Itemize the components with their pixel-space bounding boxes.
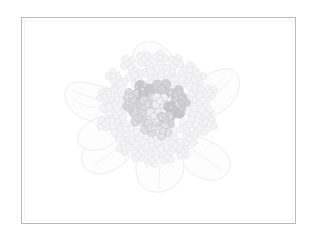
botanical-illustration <box>0 0 316 241</box>
artwork-canvas: Hydrangea flower head sketch <box>0 0 316 241</box>
